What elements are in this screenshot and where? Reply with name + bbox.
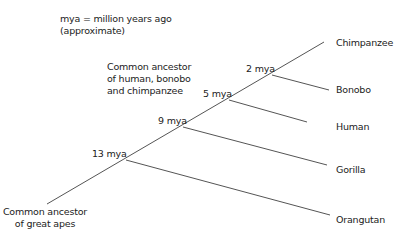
leaf-orangutan: Orangutan [336, 214, 385, 227]
branch-gorilla [183, 127, 327, 165]
leaf-human: Human [336, 121, 369, 134]
leaf-bonobo: Bonobo [336, 84, 371, 97]
leaf-chimpanzee: Chimpanzee [336, 37, 393, 50]
root-label-line-1: Common ancestor [2, 206, 88, 219]
node-label-2mya: 2 mya [246, 63, 275, 76]
phylogenetic-tree-diagram: mya = million years ago (approximate) Co… [0, 0, 398, 240]
node-label-5mya: 5 mya [203, 88, 232, 101]
legend-line-2: (approximate) [60, 25, 125, 38]
node-label-9mya: 9 mya [158, 115, 187, 128]
legend-line-1: mya = million years ago [60, 13, 172, 26]
annotation-line-2: of human, bonobo [107, 73, 191, 86]
node-label-13mya: 13 mya [92, 148, 127, 161]
branch-bonobo [272, 75, 329, 90]
annotation-line-1: Common ancestor [107, 61, 191, 74]
branch-orangutan [126, 160, 330, 215]
annotation-line-3: and chimpanzee [107, 85, 183, 98]
root-label-line-2: of great apes [2, 218, 88, 231]
branch-human [229, 100, 307, 122]
leaf-gorilla: Gorilla [336, 164, 365, 177]
